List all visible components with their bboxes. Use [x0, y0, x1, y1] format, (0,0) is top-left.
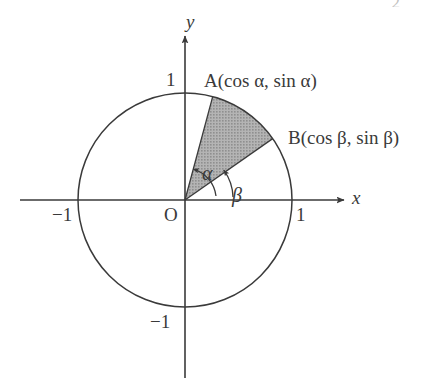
x-axis-label: x — [352, 188, 360, 207]
y-tick-negative-one: −1 — [150, 312, 170, 331]
y-axis-label: y — [186, 12, 194, 31]
unit-circle-figure: 2 x y O −1 1 1 −1 A(cos α, sin α) B(cos … — [0, 0, 428, 390]
x-tick-one: 1 — [296, 205, 306, 224]
figure-canvas — [0, 0, 428, 390]
point-b-label: B(cos β, sin β) — [288, 128, 399, 147]
angle-beta-label: β — [232, 185, 242, 205]
x-tick-negative-one: −1 — [52, 205, 72, 224]
page-corner-mark: 2 — [392, 0, 401, 7]
point-a-label: A(cos α, sin α) — [204, 71, 317, 90]
y-tick-one: 1 — [166, 70, 176, 89]
origin-label: O — [164, 205, 178, 224]
angle-alpha-label: α — [202, 163, 213, 183]
